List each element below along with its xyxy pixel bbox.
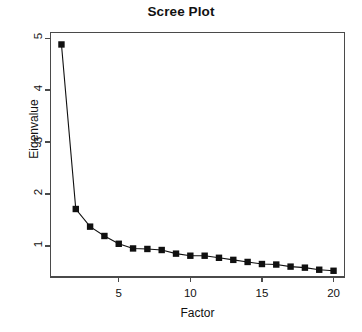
y-tick-label: 1	[32, 234, 44, 254]
plot-frame	[50, 32, 345, 277]
x-tick-mark	[118, 277, 119, 282]
y-tick-label: 5	[32, 26, 44, 46]
x-tick-mark	[261, 277, 262, 282]
x-tick-mark	[190, 277, 191, 282]
scree-plot-figure: Scree Plot Eigenvalue Factor 12345 51015…	[0, 0, 362, 332]
y-tick-label: 2	[32, 182, 44, 202]
x-tick-label: 10	[176, 287, 204, 299]
x-tick-label: 5	[105, 287, 133, 299]
y-tick-mark	[45, 245, 50, 246]
y-tick-label: 3	[32, 130, 44, 150]
x-tick-label: 15	[248, 287, 276, 299]
x-axis-label: Factor	[50, 306, 345, 320]
x-axis-spine	[50, 277, 345, 278]
y-tick-mark	[45, 38, 50, 39]
chart-title: Scree Plot	[0, 4, 362, 19]
x-tick-mark	[333, 277, 334, 282]
y-tick-mark	[45, 193, 50, 194]
y-tick-mark	[45, 89, 50, 90]
y-tick-mark	[45, 141, 50, 142]
y-tick-label: 4	[32, 78, 44, 98]
x-tick-label: 20	[320, 287, 348, 299]
y-axis-spine	[50, 32, 51, 277]
